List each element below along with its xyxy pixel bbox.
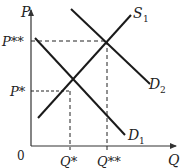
y-axis-label: P bbox=[20, 4, 31, 20]
s1-label-sub: 1 bbox=[143, 14, 149, 24]
s1-label: S 1 bbox=[133, 5, 149, 24]
d2-label: D 2 bbox=[148, 76, 166, 95]
d1-label: D 1 bbox=[127, 127, 145, 146]
x-axis-label: Q bbox=[168, 152, 180, 168]
origin-label: 0 bbox=[17, 149, 25, 163]
d2-label-main: D bbox=[148, 76, 160, 92]
p-star-label: P* bbox=[9, 84, 26, 99]
q-star-star-label: Q** bbox=[97, 154, 121, 168]
supply-curve-s1 bbox=[38, 15, 131, 118]
d1-label-main: D bbox=[127, 127, 139, 143]
demand-curve-d1 bbox=[35, 38, 125, 135]
s1-label-main: S bbox=[133, 5, 143, 21]
p-star-star-label: P** bbox=[1, 34, 24, 49]
q-star-label: Q* bbox=[60, 154, 78, 168]
d1-label-sub: 1 bbox=[139, 136, 145, 146]
d2-label-sub: 2 bbox=[160, 85, 166, 95]
supply-demand-diagram: P Q 0 P** P* Q* Q** S 1 D 2 D 1 bbox=[0, 0, 180, 168]
